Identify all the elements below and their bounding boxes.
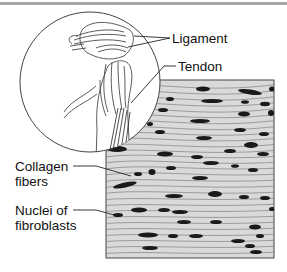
collagen-fibers-label-line2: fibers <box>15 174 48 189</box>
collagen-fibers-label-line1: Collagen <box>15 159 68 174</box>
nuclei-label-line2: fibroblasts <box>15 218 77 233</box>
tendon-label: Tendon <box>178 59 222 74</box>
nuclei-label-line1: Nuclei of <box>15 203 68 218</box>
ligament-label: Ligament <box>172 31 228 46</box>
